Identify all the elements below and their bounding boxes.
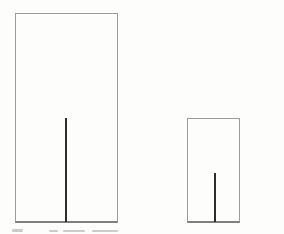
large-frame — [15, 13, 118, 223]
caption-remnant-mark — [49, 230, 58, 232]
caption-remnant-mark — [92, 230, 118, 232]
small-frame — [187, 118, 240, 223]
scanned-figure-page — [0, 0, 284, 234]
small-frame-inner-line — [214, 173, 216, 222]
caption-remnant-mark — [63, 230, 85, 232]
large-frame-inner-line — [65, 118, 67, 222]
caption-remnant-mark — [12, 229, 23, 232]
